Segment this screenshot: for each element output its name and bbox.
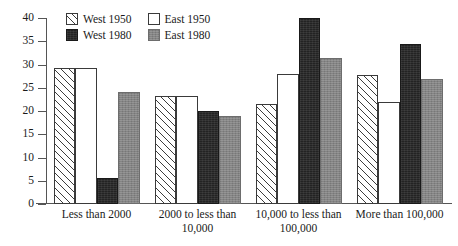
legend-label: West 1950 <box>83 13 132 25</box>
bar-group <box>357 18 443 204</box>
bar-group <box>155 18 241 204</box>
y-axis-tick-label: 5 <box>4 175 34 187</box>
bar <box>421 79 443 204</box>
y-axis-tick <box>38 88 46 89</box>
plot-area <box>46 18 450 204</box>
bar <box>219 116 241 204</box>
black-swatch-icon <box>66 29 78 41</box>
bar <box>118 92 140 204</box>
bar <box>176 96 198 204</box>
bar-group <box>256 18 342 204</box>
y-axis-tick <box>38 204 46 205</box>
bar-chart: 0510152025303540 Less than 20002000 to l… <box>0 0 458 246</box>
legend-label: East 1980 <box>165 29 211 41</box>
chart-legend: West 1950 East 1950 West 1980 East 1980 <box>66 13 210 41</box>
hatch-swatch-icon <box>66 13 78 25</box>
bar <box>400 44 422 204</box>
bar <box>299 18 321 204</box>
bar <box>277 74 299 204</box>
gray-swatch-icon <box>148 29 160 41</box>
category-label: More than 100,000 <box>331 208 458 222</box>
bar <box>378 102 400 204</box>
category-label-line: 100,000 <box>230 222 367 236</box>
y-axis-tick-label: 30 <box>4 59 34 71</box>
legend-label: West 1980 <box>83 29 132 41</box>
white-swatch-icon <box>148 13 160 25</box>
legend-label: East 1950 <box>165 13 211 25</box>
y-axis-tick-label: 10 <box>4 152 34 164</box>
bar <box>256 104 278 204</box>
y-axis-tick-label: 35 <box>4 35 34 47</box>
bar-group <box>54 18 140 204</box>
y-axis-tick-label: 20 <box>4 105 34 117</box>
legend-entry-west-1950: West 1950 <box>66 13 132 25</box>
y-axis-tick <box>38 158 46 159</box>
legend-entry-east-1980: East 1980 <box>148 29 211 41</box>
legend-entry-east-1950: East 1950 <box>148 13 211 25</box>
bar <box>357 75 379 204</box>
bar <box>155 96 177 204</box>
bar <box>320 58 342 204</box>
y-axis-tick-label: 40 <box>4 12 34 24</box>
y-axis-tick-label: 25 <box>4 82 34 94</box>
bar <box>54 68 76 204</box>
bar <box>75 68 97 204</box>
y-axis-tick <box>38 65 46 66</box>
y-axis-tick <box>38 18 46 19</box>
y-axis-tick <box>38 181 46 182</box>
y-axis-tick <box>38 41 46 42</box>
y-axis-tick-label: 15 <box>4 128 34 140</box>
legend-entry-west-1980: West 1980 <box>66 29 132 41</box>
y-axis-tick <box>38 111 46 112</box>
bar <box>97 178 119 204</box>
y-axis-tick <box>38 134 46 135</box>
category-label-line: More than 100,000 <box>331 208 458 222</box>
bar <box>198 111 220 204</box>
